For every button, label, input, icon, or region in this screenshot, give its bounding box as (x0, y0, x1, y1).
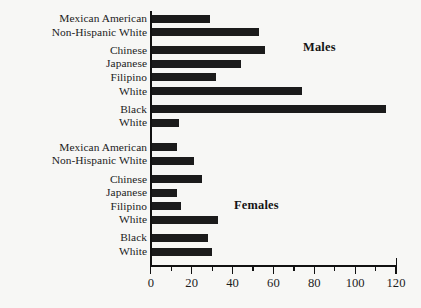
category-label: Non-Hispanic White (0, 27, 147, 38)
category-label: Chinese (0, 45, 147, 56)
category-label: Mexican American (0, 13, 147, 24)
bar (151, 87, 302, 95)
category-label: Black (0, 104, 147, 115)
bar (151, 15, 210, 23)
category-label: White (0, 117, 147, 128)
axis-tick-major (355, 266, 356, 274)
axis-tick-minor (171, 266, 172, 271)
axis-tick-minor (334, 266, 335, 271)
category-label: Filipino (0, 72, 147, 83)
category-label: White (0, 246, 147, 257)
axis-tick-label: 100 (335, 276, 375, 290)
bar-chart-plot-area: Mexican AmericanNon-Hispanic WhiteChines… (0, 0, 421, 308)
bar (151, 202, 182, 210)
value-axis-vertical-line (150, 11, 152, 266)
axis-tick-label: 20 (172, 276, 212, 290)
category-label: Mexican American (0, 142, 147, 153)
category-label: Japanese (0, 187, 147, 198)
axis-tick-label: 60 (253, 276, 293, 290)
bar (151, 46, 265, 54)
bar (151, 234, 208, 242)
bar (151, 28, 259, 36)
axis-tick-major (150, 266, 151, 274)
axis-tick-minor (212, 266, 213, 271)
bar (151, 157, 194, 165)
bar (151, 119, 180, 127)
axis-tick-major (273, 266, 274, 274)
axis-tick-major (191, 266, 192, 274)
bar (151, 105, 386, 113)
bar (151, 248, 212, 256)
category-label: Non-Hispanic White (0, 155, 147, 166)
axis-tick-label: 0 (131, 276, 171, 290)
category-label: Filipino (0, 201, 147, 212)
bar (151, 216, 218, 224)
group-annotation-females: Females (234, 198, 279, 213)
axis-tick-minor (375, 266, 376, 271)
axis-tick-label: 80 (294, 276, 334, 290)
category-label: Japanese (0, 58, 147, 69)
axis-tick-major (314, 266, 315, 274)
bar (151, 175, 202, 183)
category-label: Black (0, 232, 147, 243)
group-annotation-males: Males (303, 40, 336, 55)
bar (151, 73, 216, 81)
bar (151, 143, 178, 151)
value-axis-end-cap (396, 258, 398, 266)
category-axis-labels: Mexican AmericanNon-Hispanic WhiteChines… (0, 0, 147, 308)
axis-tick-major (232, 266, 233, 274)
axis-tick-label: 40 (213, 276, 253, 290)
category-label: White (0, 86, 147, 97)
axis-tick-major (395, 266, 396, 274)
bar (151, 189, 178, 197)
category-label: White (0, 214, 147, 225)
category-label: Chinese (0, 174, 147, 185)
chart-figure: Mexican AmericanNon-Hispanic WhiteChines… (0, 0, 421, 308)
axis-tick-minor (293, 266, 294, 271)
axis-tick-label: 120 (376, 276, 416, 290)
axis-tick-minor (252, 266, 253, 271)
bar (151, 60, 241, 68)
